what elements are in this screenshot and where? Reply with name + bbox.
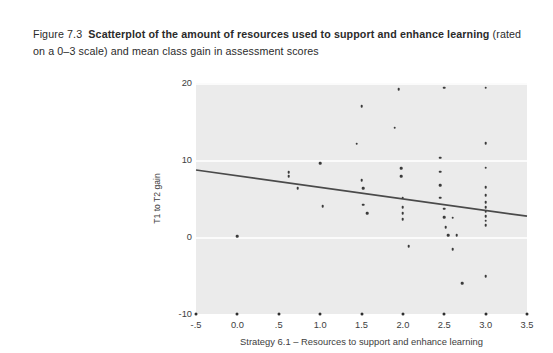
gridline [196, 160, 527, 162]
x-tick-label: .5 [275, 320, 283, 330]
data-point [461, 282, 464, 285]
data-point [484, 275, 487, 278]
data-point [484, 86, 487, 89]
x-tick-mark [319, 313, 322, 316]
x-tick-label: 0.0 [231, 320, 244, 330]
data-point [439, 184, 442, 187]
data-point [287, 175, 290, 178]
data-point [362, 203, 365, 206]
data-point [455, 234, 458, 237]
x-tick-mark [195, 313, 198, 316]
scatter-plot-area [196, 83, 527, 314]
data-point [362, 187, 365, 190]
data-point [484, 210, 487, 213]
data-point [407, 245, 410, 248]
x-tick-mark [360, 313, 363, 316]
data-point [484, 194, 487, 197]
data-point [287, 171, 290, 174]
data-point [360, 105, 363, 108]
data-point [236, 235, 239, 238]
data-point [439, 156, 442, 159]
data-point [400, 167, 403, 170]
gridline [196, 237, 527, 239]
y-tick-label: 0 [187, 232, 192, 242]
x-tick-mark [526, 313, 529, 316]
data-point [439, 196, 442, 199]
data-point [355, 143, 358, 146]
x-tick-label: 3.5 [521, 320, 534, 330]
y-axis-ticks: -1001020 [160, 83, 192, 314]
data-point [484, 186, 487, 189]
chart-region: T1 to T2 gain -1001020 -.50.0.51.01.52.0… [0, 62, 553, 353]
x-tick-mark [401, 313, 404, 316]
data-point [443, 207, 446, 210]
figure-number: Figure 7.3 [33, 28, 82, 40]
data-point [360, 179, 363, 182]
data-point [451, 216, 454, 219]
x-tick-label: 1.5 [355, 320, 368, 330]
x-axis-title: Strategy 6.1 – Resources to support and … [196, 336, 527, 347]
data-point [484, 166, 487, 169]
data-point [484, 206, 487, 209]
x-tick-mark [443, 313, 446, 316]
data-point [484, 201, 487, 204]
data-point [484, 220, 487, 223]
data-point [439, 170, 442, 173]
data-point [319, 162, 322, 165]
x-tick-label: 1.0 [314, 320, 327, 330]
x-tick-mark [484, 313, 487, 316]
figure-container: Figure 7.3 Scatterplot of the amount of … [0, 0, 553, 353]
figure-caption: Figure 7.3 Scatterplot of the amount of … [33, 26, 523, 59]
data-point [447, 234, 450, 237]
data-point [484, 215, 487, 218]
data-point [393, 126, 396, 129]
regression-line [196, 83, 527, 314]
x-axis-ticks: -.50.0.51.01.52.02.53.03.5 [196, 314, 527, 336]
data-point [397, 88, 400, 91]
data-point [296, 187, 299, 190]
x-tick-label: 3.0 [479, 320, 492, 330]
x-tick-label: -.5 [191, 320, 202, 330]
x-tick-mark [277, 313, 280, 316]
data-point [443, 86, 446, 89]
data-point [445, 226, 448, 229]
figure-title-bold: Scatterplot of the amount of resources u… [88, 28, 489, 40]
data-point [451, 248, 454, 251]
data-point [484, 224, 487, 227]
x-tick-label: 2.0 [396, 320, 409, 330]
data-point [400, 175, 403, 178]
y-tick-label: 20 [182, 78, 192, 88]
data-point [443, 216, 446, 219]
data-point [402, 206, 405, 209]
data-point [484, 142, 487, 145]
data-point [321, 205, 324, 208]
data-point [402, 196, 405, 199]
x-tick-label: 2.5 [438, 320, 451, 330]
gridline [196, 83, 527, 85]
y-tick-label: 10 [182, 155, 192, 165]
data-point [366, 212, 369, 215]
y-tick-label: -10 [179, 309, 192, 319]
x-tick-mark [236, 313, 239, 316]
data-point [402, 218, 405, 221]
data-point [402, 212, 405, 215]
